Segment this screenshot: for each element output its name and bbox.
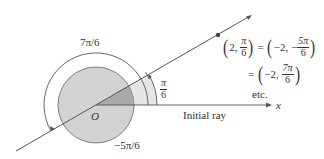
angle-label-7pi-over-6: 7π/6: [80, 37, 100, 48]
right-paren: ): [248, 36, 253, 58]
fraction-denominator: 6: [241, 48, 246, 59]
fraction-numerator: π: [160, 78, 167, 90]
fraction-numerator: π: [240, 36, 247, 48]
fraction-denominator: 6: [301, 48, 306, 59]
etc-label: etc.: [252, 89, 268, 100]
angle-label-pi-over-6: π6: [160, 78, 167, 100]
equation-lhs-r: 2,: [229, 41, 237, 53]
x-axis-arrowhead: [266, 103, 272, 108]
origin-label: O: [91, 111, 99, 122]
angle-label-neg-5pi-over-6: −5π/6: [114, 140, 140, 151]
fraction-denominator: 6: [285, 75, 290, 86]
left-paren: (: [258, 63, 263, 85]
left-paren: (: [267, 36, 272, 58]
right-paren: ): [310, 36, 315, 58]
terminal-line-arrowhead: [246, 15, 252, 20]
equals-sign: =: [248, 68, 254, 80]
right-paren: ): [295, 63, 300, 85]
fraction-numerator: 5π: [297, 36, 309, 48]
fraction-denominator: 6: [161, 90, 166, 101]
left-paren: (: [223, 36, 228, 58]
equation-rhs-r: −2,: [264, 68, 278, 80]
equation-rhs-r: −2, −: [274, 41, 297, 53]
equals-sign: =: [257, 41, 263, 53]
fraction-numerator: 7π: [282, 63, 294, 75]
equation-line-2: = ( −2, 7π6 ): [248, 63, 301, 85]
equation-line-1: ( 2, π6 ) = ( −2, − 5π6 ): [222, 36, 316, 58]
initial-ray-label: Initial ray: [183, 110, 226, 121]
x-axis-label: x: [276, 100, 281, 111]
polar-point: [216, 33, 220, 37]
terminal-line: [16, 16, 250, 151]
